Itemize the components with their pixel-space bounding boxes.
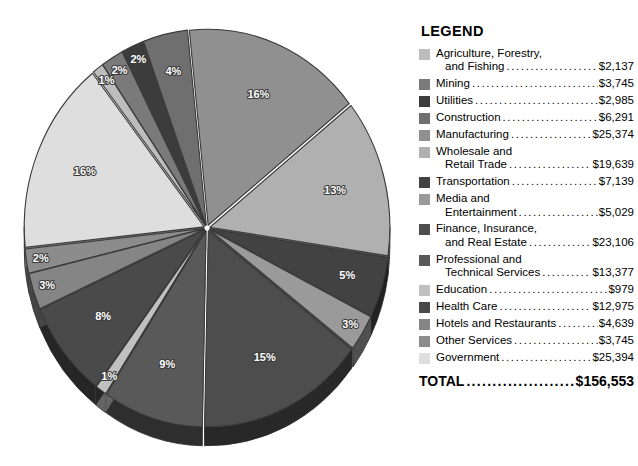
legend-item-text: Health Care.............................… <box>436 300 634 313</box>
pie-chart: 16%13%5%3%15%9%1%8%3%2%16%1%2%2%4% <box>0 0 415 466</box>
legend: LEGEND Agriculture, Forestry,and Fishing… <box>419 24 634 454</box>
legend-swatch <box>419 194 430 205</box>
legend-item: Media andEntertainment..................… <box>419 192 634 219</box>
pie-slice-percent-label: 13% <box>324 184 346 196</box>
legend-dot-leader: ........................................… <box>501 351 591 364</box>
legend-swatch <box>419 130 430 141</box>
legend-swatch <box>419 113 430 124</box>
legend-item-label-cont: and Fishing <box>445 60 504 73</box>
legend-item-label-cont: and Real Estate <box>445 236 527 249</box>
legend-swatch <box>419 285 430 296</box>
legend-swatch <box>419 49 430 60</box>
legend-item-value: $4,639 <box>599 317 634 330</box>
legend-dot-leader: ........................................… <box>514 334 598 347</box>
legend-item: Professional andTechnical Services......… <box>419 253 634 280</box>
legend-item: Mining..................................… <box>419 77 634 90</box>
legend-item-text: Government..............................… <box>436 351 634 364</box>
legend-item-label: Government <box>436 351 499 364</box>
legend-dot-leader: ........................................… <box>511 128 592 141</box>
legend-dot-leader: ........................................… <box>519 206 598 219</box>
legend-dot-leader: ........................................… <box>512 175 598 188</box>
legend-dot-leader: ........................................… <box>503 111 598 124</box>
legend-item-label-cont: Retail Trade <box>445 158 507 171</box>
pie-slice-percent-label: 15% <box>254 351 276 363</box>
legend-dot-leader: ........................................… <box>489 283 607 296</box>
pie-slice-percent-label: 4% <box>165 65 181 77</box>
legend-item-label-cont: Technical Services <box>445 266 540 279</box>
legend-item-label: Construction <box>436 111 501 124</box>
legend-item-label: Wholesale and <box>436 145 512 158</box>
legend-item-text: Other Services..........................… <box>436 334 634 347</box>
legend-item: Health Care.............................… <box>419 300 634 313</box>
pie-chart-page: 16%13%5%3%15%9%1%8%3%2%16%1%2%2%4% LEGEN… <box>0 0 638 466</box>
legend-item-label: Transportation <box>436 175 510 188</box>
legend-item-value: $13,377 <box>592 266 634 279</box>
legend-item: Finance, Insurance,and Real Estate......… <box>419 222 634 249</box>
legend-item-value: $3,745 <box>599 334 634 347</box>
legend-item-value: $19,639 <box>592 158 634 171</box>
legend-dot-leader: ........................................… <box>509 158 591 171</box>
pie-slice-percent-label: 2% <box>130 53 146 65</box>
legend-item-value: $5,029 <box>599 206 634 219</box>
legend-item: Construction............................… <box>419 111 634 124</box>
legend-dot-leader: ........................................… <box>529 236 592 249</box>
legend-item-label: Health Care <box>436 300 497 313</box>
legend-swatch <box>419 147 430 158</box>
legend-swatch <box>419 255 430 266</box>
legend-item: Other Services..........................… <box>419 334 634 347</box>
legend-dot-leader: ........................................… <box>558 317 598 330</box>
legend-item-value: $12,975 <box>592 300 634 313</box>
legend-item-text: Professional andTechnical Services......… <box>436 253 634 280</box>
legend-item: Agriculture, Forestry,and Fishing.......… <box>419 47 634 74</box>
legend-dot-leader: ........................................… <box>499 300 591 313</box>
legend-item-label: Hotels and Restaurants <box>436 317 556 330</box>
legend-item-text: Agriculture, Forestry,and Fishing.......… <box>436 47 634 74</box>
legend-item-text: Finance, Insurance,and Real Estate......… <box>436 222 634 249</box>
legend-item-label-cont: Entertainment <box>445 206 517 219</box>
legend-item-text: Wholesale andRetail Trade...............… <box>436 145 634 172</box>
pie-slice-percent-label: 3% <box>39 279 55 291</box>
pie-slice-percent-label: 1% <box>101 370 117 382</box>
legend-item-label: Media and <box>436 192 490 205</box>
legend-item-label: Agriculture, Forestry, <box>436 47 542 60</box>
legend-dot-leader: ........................................… <box>475 94 598 107</box>
legend-total-leader: ........................................ <box>466 373 574 389</box>
legend-item-value: $3,745 <box>599 77 634 90</box>
pie-slice-percent-label: 9% <box>159 358 175 370</box>
legend-item-value: $979 <box>608 283 634 296</box>
legend-item-value: $25,394 <box>592 351 634 364</box>
legend-swatch <box>419 336 430 347</box>
pie-slice-percent-label: 3% <box>342 318 358 330</box>
legend-item: Manufacturing...........................… <box>419 128 634 141</box>
legend-item-value: $23,106 <box>592 236 634 249</box>
legend-item: Hotels and Restaurants..................… <box>419 317 634 330</box>
pie-slice-percent-label: 5% <box>339 269 355 281</box>
legend-item: Wholesale andRetail Trade...............… <box>419 145 634 172</box>
legend-item-text: Utilities...............................… <box>436 94 634 107</box>
legend-item: Government..............................… <box>419 351 634 364</box>
legend-item-value: $6,291 <box>599 111 634 124</box>
legend-swatch <box>419 302 430 313</box>
legend-total-label: TOTAL <box>419 373 464 389</box>
legend-item-label: Other Services <box>436 334 512 347</box>
legend-item-value: $25,374 <box>592 128 634 141</box>
legend-item-label: Finance, Insurance, <box>436 222 537 235</box>
legend-total-row: TOTAL ..................................… <box>419 373 634 389</box>
pie-slice-percent-label: 16% <box>74 165 96 177</box>
legend-swatch <box>419 96 430 107</box>
legend-item-label: Mining <box>436 77 470 90</box>
legend-dot-leader: ........................................… <box>506 60 597 73</box>
legend-item-text: Media andEntertainment..................… <box>436 192 634 219</box>
legend-item-text: Hotels and Restaurants..................… <box>436 317 634 330</box>
legend-item-value: $2,137 <box>599 60 634 73</box>
legend-title: LEGEND <box>421 24 634 40</box>
pie-slice-percent-label: 2% <box>33 252 49 264</box>
legend-rows: Agriculture, Forestry,and Fishing.......… <box>419 47 634 364</box>
legend-dot-leader: ........................................… <box>542 266 591 279</box>
legend-item-text: Mining..................................… <box>436 77 634 90</box>
legend-item-label: Professional and <box>436 253 522 266</box>
legend-item-text: Manufacturing...........................… <box>436 128 634 141</box>
legend-item: Education...............................… <box>419 283 634 296</box>
pie-slice-percent-label: 2% <box>112 64 128 76</box>
legend-swatch <box>419 79 430 90</box>
